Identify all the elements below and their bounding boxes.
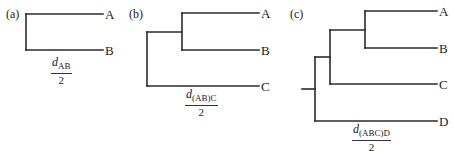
taxon-c-label: C: [439, 78, 448, 91]
tree-a: [26, 14, 103, 50]
taxon-d-label: D: [439, 115, 448, 128]
distance-label-abc: d(AB)C 2: [185, 88, 218, 118]
taxon-a-label: A: [261, 7, 270, 20]
panel-c-label: (c): [290, 8, 303, 20]
tree-c: [302, 11, 437, 121]
distance-denominator: 2: [199, 106, 205, 118]
distance-label-ab: dAB 2: [51, 56, 72, 86]
distance-denominator: 2: [59, 74, 65, 86]
taxon-c-label: C: [261, 80, 270, 93]
taxon-a-label: A: [439, 5, 448, 18]
distance-label-abcd: d(ABC)D 2: [352, 123, 391, 151]
taxon-b-label: B: [105, 44, 114, 57]
distance-subscript: (AB)C: [192, 93, 217, 103]
distance-subscript: (ABC)D: [359, 128, 390, 138]
distance-denominator: 2: [369, 141, 375, 151]
tree-b: [147, 13, 259, 86]
taxon-b-label: B: [261, 44, 270, 57]
panel-a-label: (a): [6, 8, 19, 20]
distance-subscript: AB: [58, 61, 71, 71]
taxon-a-label: A: [105, 8, 114, 21]
taxon-b-label: B: [439, 42, 448, 55]
panel-b-label: (b): [129, 8, 143, 20]
